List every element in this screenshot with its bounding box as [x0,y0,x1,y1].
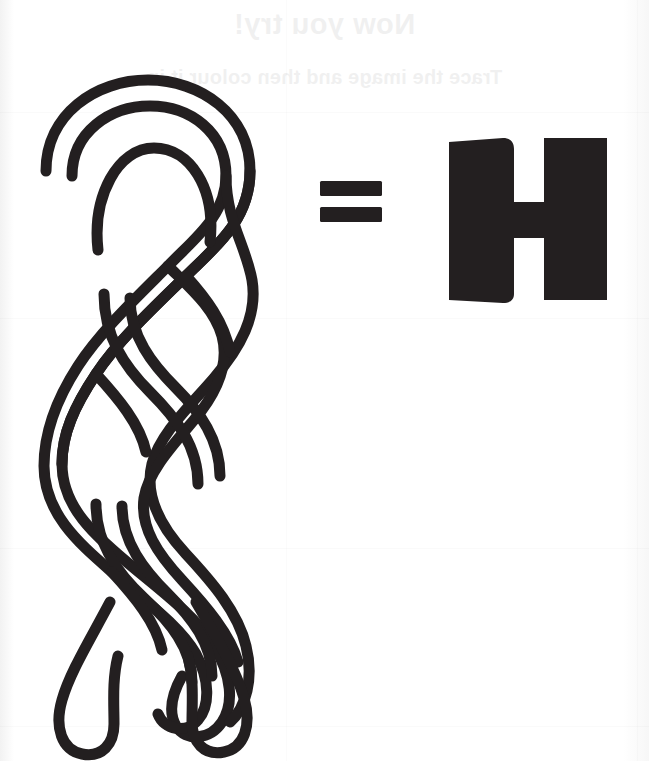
knot-path-left-foot [59,602,118,755]
equals-sign-svg [312,168,398,234]
equals-bar-top [320,181,382,196]
worksheet-page: Now you try! Trace the image and then co… [0,0,649,761]
letter-h-shape [449,138,607,303]
scan-band [637,0,638,761]
knotwork-letter-glyph [0,36,300,756]
knotwork-svg [0,36,300,756]
equals-bar-bottom [320,207,382,222]
letter-h-glyph [440,128,620,312]
knot-strand-group [44,80,253,755]
equals-sign [312,168,398,234]
letter-h-svg [440,128,620,312]
